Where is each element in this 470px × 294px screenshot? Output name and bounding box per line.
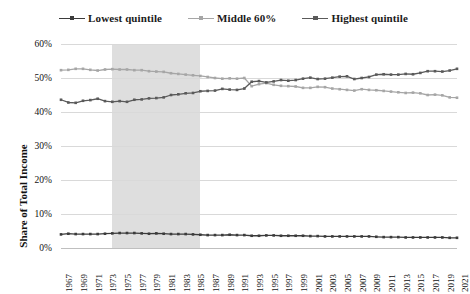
x-tick-label-1987: 1987 (211, 274, 221, 292)
data-point (170, 233, 173, 236)
x-tick-label-1999: 1999 (299, 274, 309, 292)
data-point (426, 70, 429, 73)
data-point (412, 236, 415, 239)
data-point (126, 68, 129, 71)
data-point (331, 87, 334, 90)
data-point (89, 99, 92, 102)
data-point (111, 101, 114, 104)
legend-item-middle-60[interactable]: Middle 60% (188, 12, 276, 24)
data-point (170, 94, 173, 97)
data-point (448, 69, 451, 72)
data-point (316, 235, 319, 238)
data-point (331, 76, 334, 79)
data-point (236, 77, 239, 80)
data-point (272, 234, 275, 237)
data-point (265, 81, 268, 84)
data-point (287, 85, 290, 88)
x-tick-label-2011: 2011 (387, 274, 397, 292)
data-point (360, 235, 363, 238)
data-point (126, 101, 129, 104)
data-point (419, 72, 422, 75)
data-point (382, 236, 385, 239)
data-point (184, 233, 187, 236)
data-point (148, 232, 151, 235)
data-point (89, 69, 92, 72)
data-point (448, 96, 451, 99)
x-tick-label-1985: 1985 (196, 274, 206, 292)
data-point (96, 233, 99, 236)
data-point (74, 68, 77, 71)
data-point (162, 96, 165, 99)
x-tick-label-1967: 1967 (64, 274, 74, 292)
data-point (280, 79, 283, 82)
legend-label-middle-60: Middle 60% (217, 12, 276, 24)
data-point (309, 235, 312, 238)
data-point (214, 77, 217, 80)
data-point (426, 236, 429, 239)
data-point (353, 78, 356, 81)
data-point (228, 77, 231, 80)
data-point (236, 234, 239, 237)
data-point (67, 101, 70, 104)
data-point (368, 76, 371, 79)
data-point (192, 74, 195, 77)
y-tick-label-30%: 30% (35, 141, 52, 151)
x-tick-label-2021: 2021 (460, 274, 470, 292)
data-point (118, 100, 121, 103)
data-point (228, 88, 231, 91)
data-point (148, 97, 151, 100)
data-point (280, 85, 283, 88)
data-point (74, 233, 77, 236)
data-point (390, 90, 393, 93)
data-point (126, 232, 129, 235)
data-point (206, 90, 209, 93)
data-point (338, 75, 341, 78)
data-point (96, 97, 99, 100)
legend-item-lowest-quintile[interactable]: Lowest quintile (59, 12, 162, 24)
y-tick-label-60%: 60% (35, 39, 52, 49)
y-tick-label-20%: 20% (35, 175, 52, 185)
data-point (309, 87, 312, 90)
x-tick-label-1993: 1993 (255, 274, 265, 292)
legend-item-highest-quintile[interactable]: Highest quintile (302, 12, 407, 24)
data-point (89, 233, 92, 236)
data-point (316, 86, 319, 89)
x-tick-label-2001: 2001 (314, 274, 324, 292)
data-point (250, 234, 253, 237)
data-point (111, 232, 114, 235)
data-point (236, 89, 239, 92)
data-point (382, 90, 385, 93)
data-point (302, 87, 305, 90)
data-point (96, 69, 99, 72)
data-point (184, 73, 187, 76)
data-point (456, 68, 459, 71)
data-point (133, 232, 136, 235)
data-point (228, 233, 231, 236)
x-tick-label-2003: 2003 (328, 274, 338, 292)
data-point (397, 73, 400, 76)
data-point (419, 236, 422, 239)
data-point (353, 235, 356, 238)
x-tick-label-2007: 2007 (358, 274, 368, 292)
data-point (258, 234, 261, 237)
data-point (243, 234, 246, 237)
x-tick-label-2005: 2005 (343, 274, 353, 292)
data-point (309, 76, 312, 79)
data-point (82, 68, 85, 71)
data-point (111, 68, 114, 71)
plot-area (61, 44, 457, 248)
data-point (104, 232, 107, 235)
data-point (294, 85, 297, 88)
data-point (419, 92, 422, 95)
data-point (287, 234, 290, 237)
data-point (360, 88, 363, 91)
data-point (368, 235, 371, 238)
data-point (280, 234, 283, 237)
data-point (294, 79, 297, 82)
data-point (397, 91, 400, 94)
data-point (324, 86, 327, 89)
data-point (456, 96, 459, 99)
series-lines (61, 44, 457, 248)
x-tick-label-1971: 1971 (94, 274, 104, 292)
